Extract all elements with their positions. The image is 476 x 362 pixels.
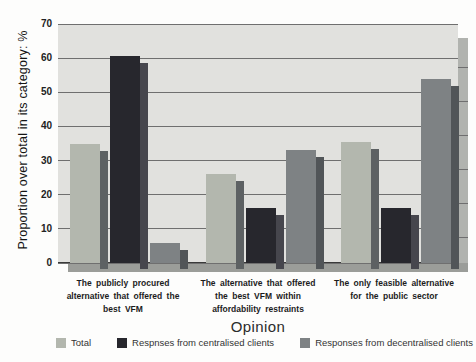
figure-3d-bar-chart: Proportion over total in its category: %…: [0, 0, 476, 362]
legend-swatch-icon: [117, 338, 127, 348]
category-label-2: The only feasible alternative for the pu…: [319, 277, 469, 303]
wall-gridline-10: [458, 237, 468, 238]
wall-gridline-50: [458, 101, 468, 102]
wall-gridline-20: [458, 203, 468, 204]
bar-shadow: [451, 86, 459, 269]
wall-gridline-60: [458, 67, 468, 68]
y-tick-label-20: 20: [28, 189, 52, 200]
bar-shadow: [411, 215, 419, 269]
bar-series-0-group-0: [70, 144, 100, 264]
bar-series-1-group-0: [110, 56, 140, 263]
y-tick-label-10: 10: [28, 223, 52, 234]
bar-shadow: [180, 250, 188, 269]
bar-shadow: [236, 181, 244, 269]
wall-gridline-40: [458, 135, 468, 136]
legend-swatch-icon: [300, 338, 310, 348]
bar-shadow: [371, 149, 379, 269]
y-tick-label-40: 40: [28, 120, 52, 131]
legend-item-0: Total: [56, 337, 91, 348]
legend: TotalRespnses from centralised clientsRe…: [56, 337, 473, 348]
chart-area: Proportion over total in its category: %…: [0, 0, 476, 362]
y-tick-label-60: 60: [28, 52, 52, 63]
y-tick-label-0: 0: [28, 257, 52, 268]
legend-item-1: Respnses from centralised clients: [117, 337, 274, 348]
bar-series-2-group-1: [286, 150, 316, 263]
gridline-70: [58, 24, 458, 25]
y-tick-label-50: 50: [28, 86, 52, 97]
wall-gridline-30: [458, 169, 468, 170]
bar-shadow: [140, 63, 148, 269]
bar-series-1-group-2: [381, 208, 411, 263]
plot-floor: [68, 263, 468, 272]
bar-series-2-group-2: [421, 79, 451, 263]
bar-shadow: [100, 151, 108, 270]
legend-label: Respnses from centralised clients: [132, 337, 274, 348]
y-tick-label-30: 30: [28, 155, 52, 166]
legend-swatch-icon: [56, 338, 66, 348]
legend-label: Total: [71, 337, 91, 348]
bar-shadow: [316, 157, 324, 269]
category-label-1: The alternative that offered the best VF…: [183, 277, 333, 316]
bar-series-0-group-2: [341, 142, 371, 263]
x-axis-title: Opinion: [188, 318, 328, 335]
bar-series-2-group-0: [150, 243, 180, 263]
bar-series-0-group-1: [206, 174, 236, 263]
y-tick-label-70: 70: [28, 18, 52, 29]
legend-label: Responses from decentralised clients: [315, 337, 473, 348]
bar-series-1-group-1: [246, 208, 276, 263]
legend-item-2: Responses from decentralised clients: [300, 337, 473, 348]
category-label-0: The publicly procured alternative that o…: [48, 277, 198, 316]
bar-shadow: [276, 215, 284, 269]
